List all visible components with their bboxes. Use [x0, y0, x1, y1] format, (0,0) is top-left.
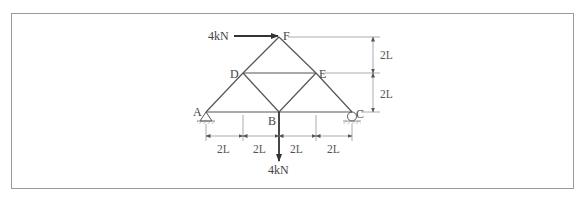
load-label-vertical: 4kN — [268, 163, 289, 177]
node-label-E: E — [319, 67, 326, 81]
member-D-B — [243, 73, 279, 112]
node-label-D: D — [230, 67, 239, 81]
member-D-F — [243, 37, 279, 73]
node-label-B: B — [268, 114, 276, 128]
dim-label-h4: 2L — [327, 143, 340, 155]
vertical-dimensions — [288, 37, 380, 112]
truss-diagram: A B C D E F 4kN 4kN 2L 2L 2L 2L 2L 2L — [0, 0, 584, 198]
truss-members — [206, 37, 352, 112]
dim-label-v2: 2L — [380, 88, 393, 100]
dim-label-h2: 2L — [253, 143, 266, 155]
node-label-F: F — [283, 29, 290, 43]
dim-label-h1: 2L — [217, 143, 230, 155]
dim-label-h3: 2L — [290, 143, 303, 155]
member-B-E — [279, 73, 316, 112]
node-label-C: C — [356, 107, 364, 121]
node-label-A: A — [193, 105, 202, 119]
dim-label-v1: 2L — [380, 49, 393, 61]
load-label-horizontal: 4kN — [208, 29, 229, 43]
